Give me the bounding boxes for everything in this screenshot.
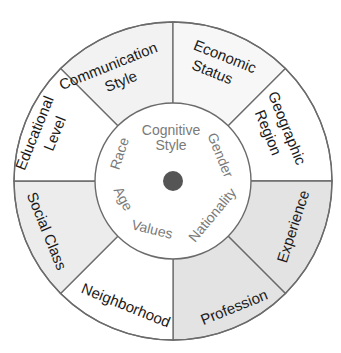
inner-label-style: Style [155, 137, 186, 153]
inner-label-cognitive: Cognitive [142, 122, 201, 138]
center-dot [163, 171, 183, 191]
diversity-wheel-diagram: Communication Style Economic Status Geog… [0, 0, 341, 353]
